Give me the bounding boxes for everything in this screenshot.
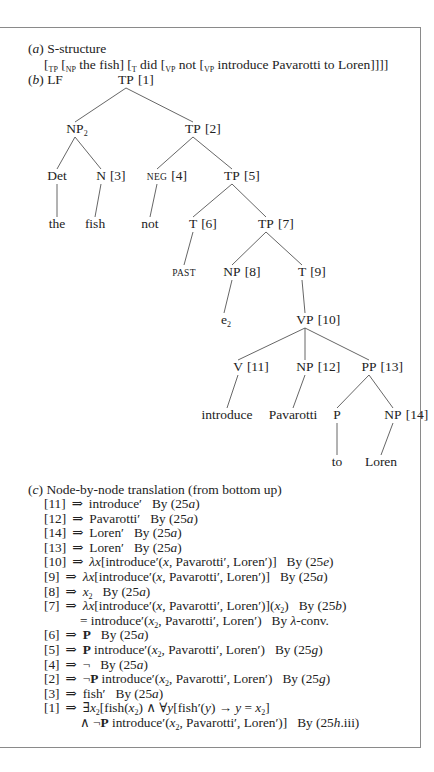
tree-node-loren: Loren: [365, 454, 397, 469]
node-ref: [7]: [44, 598, 60, 613]
section-c-heading: (c) Node-by-node translation (from botto…: [28, 482, 282, 497]
node-category: the: [49, 216, 66, 231]
node-index: [11]: [247, 359, 269, 374]
translation-row: [3]⇒fish′By (25a): [44, 687, 163, 701]
double-arrow-icon: ⇒: [66, 642, 77, 657]
node-ref: [9]: [44, 569, 60, 584]
node-ref: [13]: [44, 540, 66, 555]
tree-edge: [232, 184, 266, 217]
tree-node-n3: N[3]: [96, 168, 126, 183]
tree-node-past: PAST: [172, 264, 196, 281]
translation-expression: Loren′: [89, 540, 124, 555]
node-index: [5]: [244, 168, 260, 183]
node-subscript: 2: [84, 129, 88, 138]
tree-edge: [305, 328, 369, 360]
tree-node-tp2: TP[2]: [185, 121, 221, 136]
translation-row: [11]⇒introduce′By (25a): [44, 497, 200, 511]
double-arrow-icon: ⇒: [72, 540, 83, 555]
node-index: [4]: [171, 168, 187, 183]
translation-expression: = introduce′(x2, Pavarotti′, Loren′): [80, 613, 262, 628]
tree-edge: [126, 88, 193, 122]
node-index: [8]: [245, 264, 261, 279]
double-arrow-icon: ⇒: [72, 554, 83, 569]
translation-expression: λx[introduce′(x, Pavarotti′, Loren′)](x2…: [83, 598, 289, 613]
translation-expression: ¬: [83, 657, 91, 672]
double-arrow-icon: ⇒: [66, 598, 77, 613]
node-category: P: [333, 407, 341, 422]
node-ref: [2]: [44, 671, 60, 686]
node-category: NEG: [147, 172, 167, 182]
rule-citation: By (25a): [150, 511, 198, 526]
node-category: TP: [185, 121, 201, 136]
tree-edge: [95, 184, 101, 217]
tree-edge: [302, 280, 305, 313]
node-category: to: [332, 454, 343, 469]
translation-row: [12]⇒Pavarotti′By (25a): [44, 512, 198, 526]
tree-node-t6: T[6]: [189, 216, 217, 231]
node-category: NP: [384, 407, 401, 422]
node-category: fish: [85, 216, 105, 231]
translation-expression: x2: [83, 584, 93, 599]
translation-expression: P introduce′(x2, Pavarotti′, Loren′): [83, 642, 265, 657]
double-arrow-icon: ⇒: [72, 496, 83, 511]
node-category: PAST: [172, 268, 196, 278]
tree-edge: [57, 137, 75, 169]
translation-row: [4]⇒¬By (25a): [44, 658, 148, 672]
tree-edge: [232, 232, 266, 265]
tree-node-the: the: [49, 216, 66, 231]
translation-expression: Pavarotti′: [89, 511, 140, 526]
tree-edge: [227, 375, 238, 408]
rule-citation: By (25a): [134, 540, 182, 555]
translation-row: [6]⇒PBy (25a): [44, 628, 148, 642]
double-arrow-icon: ⇒: [72, 525, 83, 540]
tree-node-np8: NP[8]: [223, 264, 260, 279]
node-ref: [14]: [44, 525, 66, 540]
node-ref: [12]: [44, 511, 66, 526]
node-ref: [1]: [44, 700, 60, 715]
tree-node-neg4: NEG[4]: [147, 168, 187, 185]
rule-citation: By λ-conv.: [272, 613, 329, 628]
tree-node-det: Det: [47, 168, 67, 183]
node-index: [7]: [278, 216, 294, 231]
tree-edge: [369, 375, 393, 408]
node-category: TP: [118, 72, 134, 87]
node-index: [10]: [318, 312, 341, 327]
tree-node-to: to: [332, 454, 343, 469]
translation-expression: fish′: [83, 686, 106, 701]
tree-node-pavarotti: Pavarotti: [269, 407, 318, 422]
rule-citation: By (25g): [282, 671, 330, 686]
tree-node-not: not: [141, 216, 158, 231]
translation-expression: ¬P introduce′(x2, Pavarotti′, Loren′): [83, 671, 273, 686]
node-subscript: 2: [227, 320, 231, 329]
node-category: N: [96, 168, 106, 183]
tree-node-pp13: PP[13]: [361, 359, 403, 374]
section-c-label: (c): [28, 482, 43, 497]
tree-node-np2: NP2: [66, 121, 87, 141]
tree-edge: [337, 375, 369, 408]
translation-expression: Loren′: [89, 525, 124, 540]
tree-edge: [184, 232, 193, 265]
rule-citation: By (25a): [103, 584, 151, 599]
tree-node-fish: fish: [85, 216, 105, 231]
node-ref: [5]: [44, 642, 60, 657]
tree-node-tp7: TP[7]: [258, 216, 294, 231]
node-category: Pavarotti: [269, 407, 318, 422]
node-category: not: [141, 216, 158, 231]
node-index: [13]: [381, 359, 404, 374]
tree-node-vp10: VP[10]: [296, 312, 340, 327]
node-category: NP: [223, 264, 240, 279]
tree-node-p: P: [333, 407, 341, 422]
node-category: NP: [66, 121, 83, 136]
node-ref: [3]: [44, 686, 60, 701]
rule-citation: By (25a): [280, 569, 328, 584]
node-category: PP: [361, 359, 376, 374]
node-category: VP: [296, 312, 313, 327]
node-index: [9]: [310, 264, 326, 279]
section-c-title: Node-by-node translation (from bottom up…: [46, 482, 281, 497]
double-arrow-icon: ⇒: [66, 569, 77, 584]
double-arrow-icon: ⇒: [66, 671, 77, 686]
node-ref: [4]: [44, 657, 60, 672]
node-category: V: [233, 359, 243, 374]
translation-expression: λx[introduce′(x, Pavarotti′, Loren′)]: [89, 554, 276, 569]
tree-edge: [381, 423, 393, 455]
